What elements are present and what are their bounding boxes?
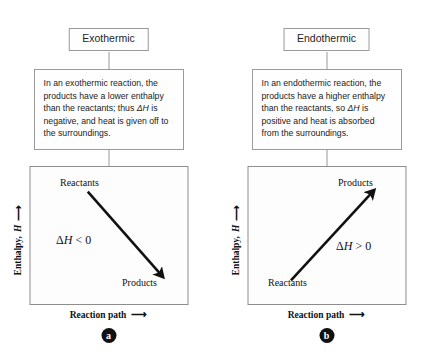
y-axis-variable: H [231, 225, 241, 232]
x-axis-text: Reaction path [70, 310, 127, 320]
x-axis-label-endothermic: Reaction path ⟶ [288, 309, 366, 320]
reaction-arrow-uphill [290, 194, 370, 281]
reaction-arrow-downhill [87, 192, 159, 274]
y-axis-label-endothermic: Enthalpy, H ⟶ [229, 180, 243, 300]
x-axis-arrow-icon: ⟶ [349, 309, 365, 320]
panel-exothermic: Exothermic In an exothermic reaction, th… [0, 0, 217, 357]
panel-badge-a: a [101, 328, 116, 343]
panel-endothermic: Endothermic In an endothermic reaction, … [218, 0, 435, 357]
y-axis-arrow-icon: ⟶ [231, 205, 242, 221]
x-axis-label-exothermic: Reaction path ⟶ [70, 309, 148, 320]
description-box-endothermic: In an endothermic reaction, the products… [252, 69, 402, 150]
delta-relation: < 0 [72, 233, 91, 247]
delta-h-value-endothermic: ΔH > 0 [336, 239, 371, 254]
delta-symbol: Δ [56, 233, 64, 247]
connector-description-to-graph [326, 150, 327, 166]
y-axis-label-exothermic: Enthalpy, H ⟶ [11, 180, 25, 300]
description-box-exothermic: In an exothermic reaction, the products … [34, 69, 184, 150]
y-axis-text: Enthalpy, [231, 236, 241, 275]
label-reactants: Reactants [60, 177, 99, 188]
connector-title-to-description [326, 52, 327, 69]
label-products: Products [122, 277, 157, 288]
label-products: Products [338, 177, 373, 188]
connector-title-to-description [108, 52, 109, 69]
delta-h-symbol: ΔH [137, 103, 149, 113]
panel-title-exothermic: Exothermic [68, 28, 149, 51]
y-axis-text: Enthalpy, [13, 236, 23, 275]
panel-badge-b: b [319, 328, 334, 343]
y-axis-variable: H [13, 225, 23, 232]
delta-relation: > 0 [352, 239, 371, 253]
exothermic-arrow-svg [30, 167, 187, 304]
x-axis-arrow-icon: ⟶ [131, 309, 147, 320]
delta-symbol: Δ [336, 239, 344, 253]
delta-h-value-exothermic: ΔH < 0 [56, 233, 91, 248]
label-reactants: Reactants [268, 277, 307, 288]
connector-description-to-graph [108, 150, 109, 166]
delta-h-symbol: ΔH [347, 103, 359, 113]
x-axis-text: Reaction path [288, 310, 345, 320]
graph-exothermic: Reactants Products ΔH < 0 [29, 166, 188, 305]
y-axis-arrow-icon: ⟶ [13, 205, 24, 221]
graph-endothermic: Products Reactants ΔH > 0 [247, 166, 406, 305]
panel-title-endothermic: Endothermic [283, 28, 370, 51]
